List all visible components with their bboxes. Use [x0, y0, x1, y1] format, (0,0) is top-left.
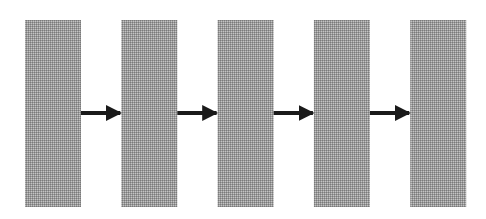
process-block-3 [218, 20, 274, 207]
flow-diagram [0, 0, 486, 219]
process-block-4 [314, 20, 370, 207]
process-block-1 [25, 20, 81, 207]
process-block-5 [410, 20, 466, 207]
process-block-2 [121, 20, 177, 207]
